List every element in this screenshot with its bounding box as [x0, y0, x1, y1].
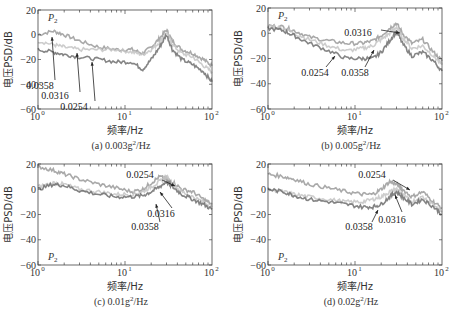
curve-annotation: 0.0358: [345, 221, 373, 232]
plot-frame: [268, 8, 442, 109]
x-tick-label: 10: [434, 267, 444, 278]
panel-caption: (b) 0.005g2/Hz: [321, 139, 381, 152]
svg-text:1: 1: [128, 265, 132, 273]
x-tick-label: 10: [204, 111, 214, 122]
y-tick-label: 0: [261, 184, 266, 195]
panel-d: 200−20−40−60100101102电压PSD/dB频率/Hz(d) 0.…: [232, 159, 449, 309]
x-axis-label: 频率/Hz: [107, 280, 143, 292]
y-tick-label: −20: [20, 54, 36, 65]
svg-text:1: 1: [128, 109, 132, 117]
x-tick-label: 10: [117, 111, 127, 122]
svg-text:0: 0: [41, 265, 45, 273]
svg-text:2: 2: [445, 109, 449, 117]
arrow-head-icon: [51, 37, 54, 41]
x-tick-label: 10: [30, 267, 40, 278]
x-axis-label: 频率/Hz: [337, 124, 373, 136]
y-tick-label: −40: [250, 234, 266, 245]
annotation-arrow: [92, 62, 95, 101]
svg-text:2: 2: [215, 265, 219, 273]
y-tick-label: −40: [250, 78, 266, 89]
x-tick-label: 10: [204, 267, 214, 278]
y-tick-label: 0: [31, 29, 36, 40]
curve-annotation: 0.0358: [341, 67, 369, 78]
svg-text:2: 2: [215, 109, 219, 117]
panel-c: 200−20−40−60100101102电压PSD/dB频率/Hz(c) 0.…: [2, 159, 219, 309]
curve-annotation: 0.0316: [378, 214, 406, 225]
x-tick-label: 10: [260, 267, 270, 278]
curve-annotation: 0.0254: [301, 67, 329, 78]
svg-text:0: 0: [41, 109, 45, 117]
svg-text:1: 1: [358, 109, 362, 117]
psd-curve-0.0316: [38, 176, 212, 207]
svg-text:0: 0: [271, 265, 275, 273]
arrow-head-icon: [76, 53, 79, 57]
curve-annotation: 0.0358: [131, 221, 159, 232]
y-tick-label: 0: [31, 184, 36, 195]
arrow-head-icon: [91, 62, 94, 66]
panel-caption: (c) 0.01g2/Hz: [94, 295, 149, 308]
y-tick-label: 20: [256, 159, 266, 170]
curve-annotation: 0.0254: [126, 169, 154, 180]
psd-curve-0.0358: [38, 30, 212, 66]
x-tick-label: 10: [30, 111, 40, 122]
annotation-arrow: [52, 37, 55, 80]
psd-curve-0.0254: [38, 35, 212, 82]
curve-annotation: 0.0316: [344, 27, 372, 38]
point-label: P2: [277, 251, 288, 264]
y-tick-label: 20: [26, 159, 36, 170]
curve-annotation: 0.0254: [60, 101, 88, 112]
plot-frame: [38, 164, 212, 265]
y-axis-label: 电压PSD/dB: [232, 186, 244, 243]
point-label: P2: [47, 12, 58, 25]
x-tick-label: 10: [434, 111, 444, 122]
svg-text:1: 1: [358, 265, 362, 273]
x-tick-label: 10: [347, 111, 357, 122]
x-tick-label: 10: [117, 267, 127, 278]
x-axis-label: 频率/Hz: [107, 124, 143, 136]
y-tick-label: −40: [20, 234, 36, 245]
arrow-head-icon: [395, 195, 398, 199]
psd-curve-0.0254: [38, 165, 212, 204]
y-tick-label: 0: [261, 28, 266, 39]
psd-curve-0.0316: [268, 187, 442, 212]
y-axis-label: 电压PSD/dB: [232, 30, 244, 87]
svg-text:0: 0: [271, 109, 275, 117]
y-tick-label: 20: [26, 5, 36, 16]
y-tick-label: 20: [256, 3, 266, 14]
svg-text:2: 2: [445, 265, 449, 273]
point-label: P2: [47, 251, 58, 264]
x-tick-label: 10: [347, 267, 357, 278]
y-tick-label: −20: [250, 53, 266, 64]
curve-annotation: 0.0316: [147, 208, 175, 219]
panel-a: 200−20−40−60100101102电压PSD/dB频率/Hz(a) 0.…: [2, 5, 219, 153]
point-label: P2: [277, 10, 288, 23]
curve-annotation: 0.0316: [41, 90, 69, 101]
curve-annotation: 0.0254: [358, 169, 386, 180]
x-tick-label: 10: [260, 111, 270, 122]
y-tick-label: −20: [20, 209, 36, 220]
y-tick-label: −20: [250, 209, 266, 220]
panel-caption: (d) 0.02g2/Hz: [324, 295, 379, 308]
y-axis-label: 电压PSD/dB: [2, 186, 14, 243]
panel-caption: (a) 0.003g2/Hz: [91, 139, 151, 152]
y-axis-label: 电压PSD/dB: [2, 31, 14, 88]
figure-canvas: 200−20−40−60100101102电压PSD/dB频率/Hz(a) 0.…: [0, 0, 452, 314]
x-axis-label: 频率/Hz: [337, 280, 373, 292]
